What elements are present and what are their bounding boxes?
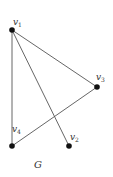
graph-diagram: v1 v3 v4 v2 G (0, 0, 113, 177)
label-v2: v2 (70, 132, 79, 143)
vertex-v4 (9, 143, 15, 149)
vertex-v2 (66, 143, 72, 149)
label-v1: v1 (13, 17, 22, 28)
label-v3: v3 (96, 72, 105, 83)
vertex-v1 (9, 27, 15, 33)
edges (12, 30, 97, 146)
graph-name-label: G (34, 159, 42, 170)
edge-v4-v3 (12, 87, 97, 146)
vertex-v3 (94, 84, 100, 90)
vertices (9, 27, 100, 149)
label-v4: v4 (12, 124, 21, 135)
edge-v1-v3 (12, 30, 97, 87)
labels: v1 v3 v4 v2 G (12, 17, 105, 170)
